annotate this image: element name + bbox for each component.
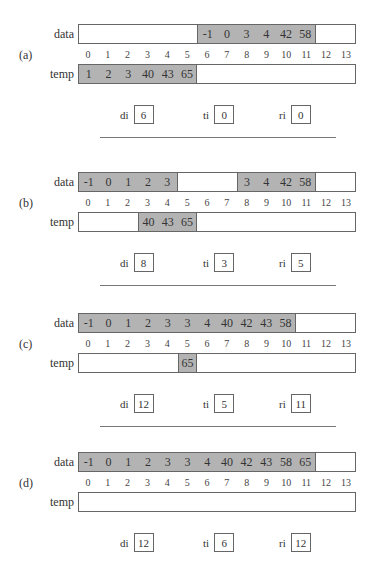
index-label: 8 <box>237 49 257 61</box>
index-label: 4 <box>157 197 177 209</box>
di-label: di <box>120 398 129 410</box>
index-label: 5 <box>177 197 197 209</box>
temp-array-label: temp <box>24 356 74 371</box>
ti-pointer: ti6 <box>203 533 234 552</box>
temp-cell <box>256 65 276 83</box>
data-cell: 0 <box>99 173 119 191</box>
panel-a: (a)data-10344258012345678910111213temp12… <box>0 0 379 140</box>
temp-cell <box>316 493 336 511</box>
temp-cell: 3 <box>118 65 138 83</box>
index-label: 5 <box>177 49 197 61</box>
temp-cell <box>79 493 99 511</box>
data-cell: 43 <box>256 453 276 471</box>
data-cell: 3 <box>178 314 198 332</box>
temp-cell <box>316 213 336 231</box>
temp-cell: 40 <box>138 65 158 83</box>
index-label: 0 <box>78 49 98 61</box>
temp-array-label: temp <box>24 495 74 510</box>
index-label: 0 <box>78 477 98 489</box>
index-label: 13 <box>336 338 356 350</box>
data-cell: 58 <box>276 314 296 332</box>
ri-pointer: ri12 <box>279 533 311 552</box>
panel-separator <box>100 426 336 427</box>
data-cell: -1 <box>79 314 99 332</box>
index-label: 6 <box>197 49 217 61</box>
ri-value-box: 5 <box>291 253 311 272</box>
ti-pointer: ti3 <box>203 253 234 272</box>
di-value-box: 8 <box>134 253 154 272</box>
data-cell: 1 <box>118 173 138 191</box>
temp-cell <box>296 354 316 372</box>
data-cell: 4 <box>256 25 276 43</box>
temp-cell <box>197 354 217 372</box>
panel-label: (b) <box>19 196 33 211</box>
temp-cell <box>335 493 355 511</box>
temp-cell <box>296 493 316 511</box>
index-label: 11 <box>296 197 316 209</box>
data-cell <box>316 25 336 43</box>
temp-array-label: temp <box>24 67 74 82</box>
index-label: 12 <box>316 338 336 350</box>
temp-cell: 65 <box>178 213 198 231</box>
index-label: 7 <box>217 338 237 350</box>
index-label: 1 <box>98 49 118 61</box>
panel-separator <box>100 285 336 286</box>
data-cell <box>296 314 316 332</box>
index-label: 3 <box>138 49 158 61</box>
temp-cell <box>79 354 99 372</box>
temp-cell: 1 <box>79 65 99 83</box>
ti-value-box: 5 <box>214 394 234 413</box>
index-label: 1 <box>98 197 118 209</box>
temp-array: 123404365 <box>78 64 356 84</box>
index-label: 9 <box>257 49 277 61</box>
index-row: 012345678910111213 <box>78 338 356 350</box>
data-cell: 1 <box>118 314 138 332</box>
index-label: 4 <box>157 477 177 489</box>
ri-label: ri <box>279 109 286 121</box>
data-array: -10123344042435865 <box>78 452 356 472</box>
ri-pointer: ri5 <box>279 253 311 272</box>
data-cell: 40 <box>217 314 237 332</box>
index-label: 4 <box>157 49 177 61</box>
data-cell <box>217 173 237 191</box>
index-label: 2 <box>118 338 138 350</box>
data-cell: 0 <box>99 453 119 471</box>
temp-cell <box>178 493 198 511</box>
index-label: 8 <box>237 338 257 350</box>
data-cell <box>99 25 119 43</box>
ti-label: ti <box>203 109 209 121</box>
index-label: 1 <box>98 477 118 489</box>
di-pointer: di12 <box>120 394 154 413</box>
index-label: 3 <box>138 338 158 350</box>
ti-pointer: ti0 <box>203 105 234 124</box>
temp-cell <box>316 354 336 372</box>
index-row: 012345678910111213 <box>78 197 356 209</box>
temp-cell <box>99 213 119 231</box>
ri-label: ri <box>279 257 286 269</box>
di-pointer: di8 <box>120 253 154 272</box>
panel-d: (d)data-10123344042435865012345678910111… <box>0 428 379 568</box>
index-label: 7 <box>217 477 237 489</box>
index-label: 3 <box>138 197 158 209</box>
index-label: 13 <box>336 49 356 61</box>
di-value-box: 6 <box>134 105 154 124</box>
data-cell: 3 <box>158 173 178 191</box>
index-label: 12 <box>316 49 336 61</box>
temp-cell <box>335 65 355 83</box>
index-label: 0 <box>78 197 98 209</box>
index-label: 2 <box>118 197 138 209</box>
index-label: 9 <box>257 197 277 209</box>
data-cell <box>335 453 355 471</box>
index-label: 7 <box>217 49 237 61</box>
temp-cell <box>217 493 237 511</box>
temp-cell: 43 <box>158 65 178 83</box>
data-cell: 58 <box>276 453 296 471</box>
index-label: 6 <box>197 477 217 489</box>
data-cell: 42 <box>276 173 296 191</box>
di-label: di <box>120 109 129 121</box>
temp-cell <box>276 213 296 231</box>
data-array-label: data <box>24 316 74 331</box>
data-array-label: data <box>24 27 74 42</box>
ti-value-box: 6 <box>214 533 234 552</box>
temp-array <box>78 492 356 512</box>
